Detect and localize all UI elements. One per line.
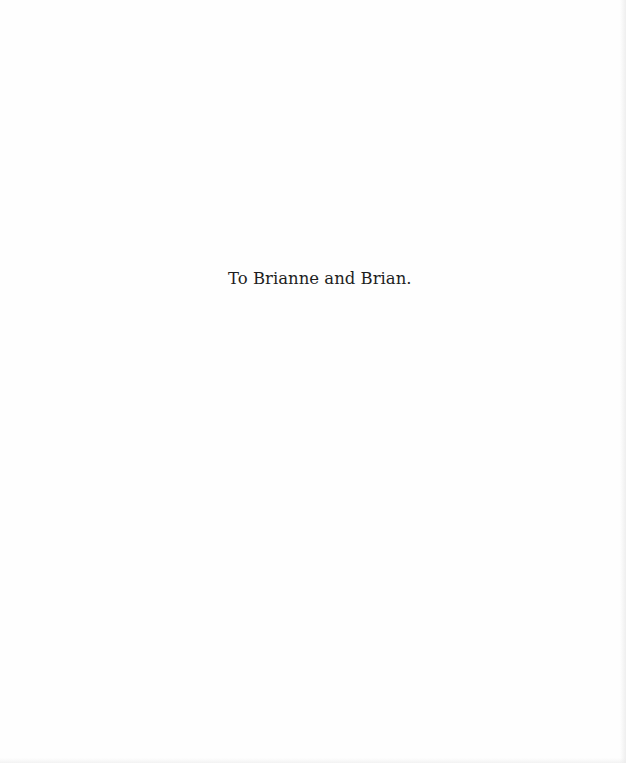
page-edge-shadow-bottom [0, 758, 626, 763]
dedication-text: To Brianne and Brian. [228, 269, 412, 288]
book-page: To Brianne and Brian. [0, 0, 626, 763]
page-edge-shadow-right [620, 0, 626, 763]
